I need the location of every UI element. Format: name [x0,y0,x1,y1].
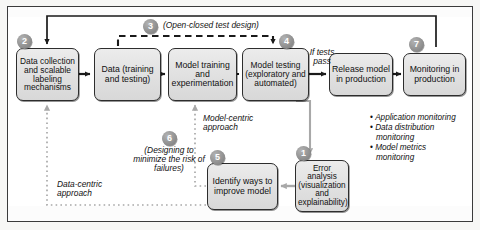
node-identify-ways-label: Identify ways to improve model [210,177,275,195]
node-data[interactable]: Data (training and testing) [94,48,161,101]
ml-workflow-diagram: Data collection and scalable labeling me… [0,0,480,230]
annotation-open-closed-test-design: (Open-closed test design) [163,21,281,30]
monitoring-list-item-label: Application monitoring [375,113,456,122]
badge-7: 7 [409,37,424,52]
monitoring-list: • Application monitoring • Data distribu… [370,113,466,163]
node-data-label: Data (training and testing) [97,65,158,83]
monitoring-list-item: • Model metrics monitoring [370,143,466,162]
arrow-open-closed-test-design [118,36,273,46]
node-model-testing[interactable]: Model testing (exploratory and automated… [242,48,309,101]
node-model-training[interactable]: Model training and experimentation [168,48,237,101]
node-data-collection-label: Data collection and scalable labeling me… [19,57,76,92]
annotation-if-tests-pass: If tests pass [309,48,335,66]
monitoring-list-item: • Data distribution monitoring [370,123,466,142]
node-identify-ways[interactable]: Identify ways to improve model [207,163,278,210]
badge-5: 5 [210,150,225,165]
badge-4: 4 [279,34,294,49]
badge-1: 1 [296,146,311,161]
monitoring-list-item-label: Model metrics monitoring [375,143,426,162]
annotation-model-centric-approach: Model-centric approach [203,114,275,132]
node-model-training-label: Model training and experimentation [171,61,234,88]
badge-2: 2 [17,34,32,49]
node-model-testing-label: Model testing (exploratory and automated… [245,61,306,87]
badge-3: 3 [143,19,158,34]
monitoring-list-item: • Application monitoring [370,113,466,123]
node-release-model-label: Release model in production [332,65,390,83]
node-monitoring[interactable]: Monitoring in production [403,53,466,96]
node-error-analysis-label: Error analysis (visualization and explai… [298,165,346,208]
badge-6: 6 [162,131,177,146]
node-data-collection[interactable]: Data collection and scalable labeling me… [16,48,79,101]
node-monitoring-label: Monitoring in production [406,65,463,83]
monitoring-list-item-label: Data distribution monitoring [375,123,434,142]
annotation-data-centric-approach: Data-centric approach [57,180,123,198]
annotation-designing-minimize-risk: (Designing to minimize the risk of failu… [128,146,210,173]
node-error-analysis[interactable]: Error analysis (visualization and explai… [295,160,349,212]
node-release-model[interactable]: Release model in production [329,53,393,96]
